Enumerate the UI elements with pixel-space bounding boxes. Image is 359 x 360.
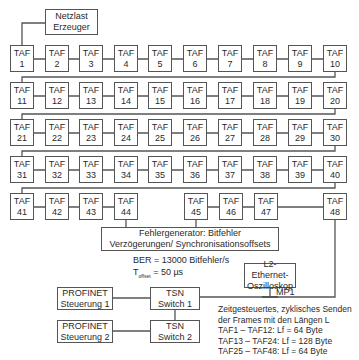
taf-prefix: TAF: [49, 122, 65, 133]
taf-3-box: TAF3: [79, 45, 103, 72]
taf-number: 35: [155, 170, 165, 181]
taf-39-box: TAF39: [288, 156, 312, 183]
taf-37-box: TAF37: [218, 156, 242, 183]
taf-prefix: TAF: [327, 159, 343, 170]
taf-18-box: TAF18: [253, 82, 277, 109]
tsn2-line2: Switch 2: [158, 332, 192, 343]
netzlast-line1: Netzlast: [55, 11, 88, 22]
taf-42-box: TAF42: [45, 193, 69, 220]
taf-25-box: TAF25: [148, 119, 172, 146]
taf-number: 2: [54, 59, 59, 70]
tsn1-line2: Switch 1: [158, 299, 192, 310]
taf-27-box: TAF27: [218, 119, 242, 146]
taf-32-box: TAF32: [45, 156, 69, 183]
taf-number: 5: [157, 59, 162, 70]
taf-number: 31: [17, 170, 27, 181]
taf-1-box: TAF1: [10, 45, 34, 72]
taf-number: 26: [190, 133, 200, 144]
taf-number: 4: [123, 59, 128, 70]
toffset-value: = 50 µs: [151, 267, 183, 277]
taf-prefix: TAF: [257, 48, 273, 59]
taf-prefix: TAF: [222, 122, 238, 133]
taf-prefix: TAF: [258, 196, 274, 207]
taf-prefix: TAF: [152, 48, 168, 59]
taf-number: 13: [86, 96, 96, 107]
taf-46-box: TAF46: [219, 193, 243, 220]
taf-number: 14: [121, 96, 131, 107]
taf-number: 16: [190, 96, 200, 107]
taf-8-box: TAF8: [253, 45, 277, 72]
taf-41-box: TAF41: [10, 193, 34, 220]
taf-10-box: TAF10: [323, 45, 347, 72]
taf-prefix: TAF: [49, 85, 65, 96]
taf-prefix: TAF: [118, 48, 134, 59]
taf-24-box: TAF24: [114, 119, 138, 146]
taf-prefix: TAF: [49, 48, 65, 59]
taf-number: 41: [17, 207, 27, 218]
profinet1-line2: Steuerung 1: [60, 299, 109, 310]
taf-prefix: TAF: [327, 122, 343, 133]
taf-prefix: TAF: [223, 196, 239, 207]
taf-prefix: TAF: [257, 122, 273, 133]
note-line: Zeitgesteuertes, zyklisches Senden: [218, 304, 352, 315]
taf-4-box: TAF4: [114, 45, 138, 72]
taf-number: 11: [17, 96, 26, 107]
taf-number: 27: [225, 133, 235, 144]
taf-48-box: TAF48: [323, 193, 347, 220]
taf-number: 46: [226, 207, 236, 218]
taf-number: 36: [190, 170, 200, 181]
taf-36-box: TAF36: [183, 156, 207, 183]
note-line: der Frames mit den Längen L: [218, 315, 352, 326]
taf-prefix: TAF: [187, 122, 203, 133]
taf-44-box: TAF44: [114, 193, 138, 220]
taf-prefix: TAF: [222, 159, 238, 170]
taf-number: 40: [330, 170, 340, 181]
taf-prefix: TAF: [292, 48, 308, 59]
taf-number: 17: [225, 96, 235, 107]
taf-prefix: TAF: [292, 159, 308, 170]
taf-13-box: TAF13: [79, 82, 103, 109]
taf-11-box: TAF11: [10, 82, 34, 109]
taf-34-box: TAF34: [114, 156, 138, 183]
tsn1-line1: TSN: [166, 288, 184, 299]
profinet2-line1: PROFINET: [62, 321, 108, 332]
note-line: TAF13 – TAF24: Lf = 128 Byte: [218, 336, 352, 347]
taf-prefix: TAF: [188, 196, 204, 207]
taf-number: 25: [155, 133, 165, 144]
taf-number: 22: [52, 133, 62, 144]
taf-number: 18: [260, 96, 270, 107]
taf-number: 47: [261, 207, 271, 218]
profinet1-line1: PROFINET: [62, 288, 108, 299]
taf-5-box: TAF5: [148, 45, 172, 72]
taf-prefix: TAF: [14, 122, 30, 133]
taf-prefix: TAF: [152, 159, 168, 170]
toffset-label: Toffset = 50 µs: [133, 267, 183, 282]
taf-number: 15: [155, 96, 165, 107]
netzlast-erzeuger-box: Netzlast Erzeuger: [45, 9, 98, 35]
taf-38-box: TAF38: [253, 156, 277, 183]
taf-33-box: TAF33: [79, 156, 103, 183]
taf-number: 44: [121, 207, 131, 218]
taf-number: 19: [295, 96, 305, 107]
taf-30-box: TAF30: [323, 119, 347, 146]
taf-21-box: TAF21: [10, 119, 34, 146]
taf-number: 37: [225, 170, 235, 181]
taf-prefix: TAF: [14, 196, 30, 207]
tsn-switch-2-box: TSN Switch 2: [150, 320, 200, 343]
taf-prefix: TAF: [83, 48, 99, 59]
mp1-label: MP1: [276, 287, 295, 298]
taf-prefix: TAF: [257, 85, 273, 96]
taf-prefix: TAF: [14, 159, 30, 170]
profinet2-line2: Steuerung 2: [60, 332, 109, 343]
taf-number: 6: [192, 59, 197, 70]
taf-prefix: TAF: [292, 122, 308, 133]
taf-prefix: TAF: [14, 48, 30, 59]
taf-prefix: TAF: [118, 85, 134, 96]
taf-number: 9: [297, 59, 302, 70]
taf-31-box: TAF31: [10, 156, 34, 183]
taf-29-box: TAF29: [288, 119, 312, 146]
taf-23-box: TAF23: [79, 119, 103, 146]
taf-prefix: TAF: [257, 159, 273, 170]
taf-number: 42: [52, 207, 62, 218]
taf-6-box: TAF6: [183, 45, 207, 72]
